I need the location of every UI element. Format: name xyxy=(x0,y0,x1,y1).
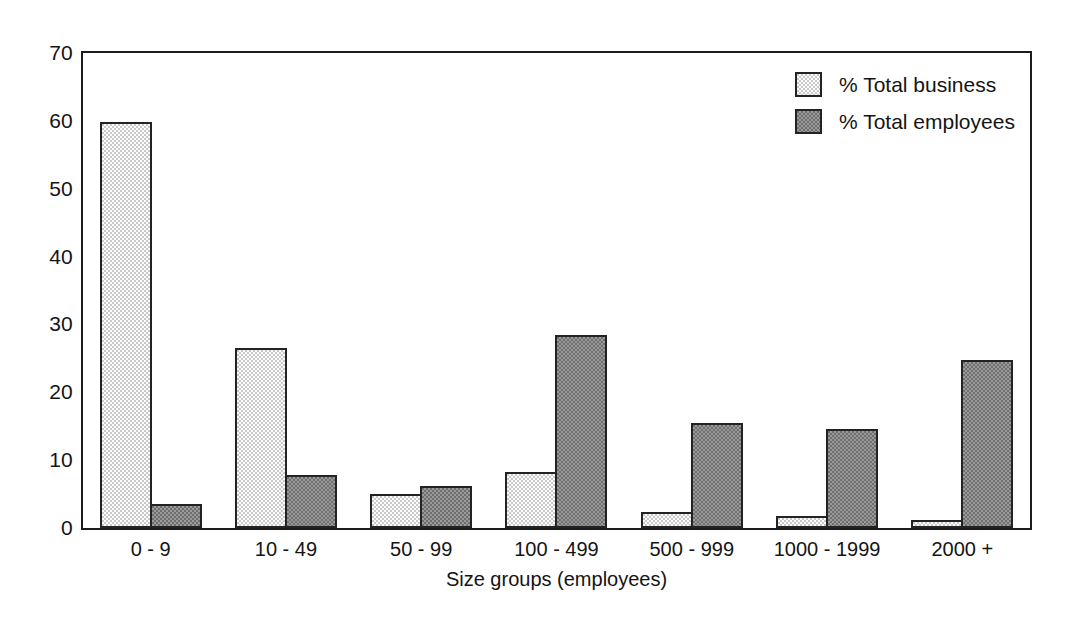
x-axis-tick-label: 500 - 999 xyxy=(624,538,759,560)
x-axis-tick-label: 10 - 49 xyxy=(218,538,353,560)
x-axis-tick-label: 100 - 499 xyxy=(489,538,624,560)
y-axis-tick-label: 60 xyxy=(0,110,73,131)
legend-label-total-employees: % Total employees xyxy=(839,110,1015,134)
bar-total-business[interactable] xyxy=(641,512,693,528)
bar-total-employees[interactable] xyxy=(285,475,337,528)
legend-item-total-business: % Total business xyxy=(795,72,1015,97)
bar-total-employees[interactable] xyxy=(420,486,472,528)
bar-chart: 010203040506070 % Total business % Total… xyxy=(0,0,1074,618)
bar-total-business[interactable] xyxy=(505,472,557,528)
legend-swatch-icon-total-employees xyxy=(795,109,822,134)
legend-label-total-business: % Total business xyxy=(839,73,996,97)
bar-group xyxy=(489,53,624,528)
bar-total-business[interactable] xyxy=(776,516,828,528)
x-axis-labels: 0 - 910 - 4950 - 99100 - 499500 - 999100… xyxy=(83,538,1030,560)
bar-total-employees[interactable] xyxy=(691,423,743,528)
bar-total-business[interactable] xyxy=(235,348,287,528)
x-axis-tick-label: 2000 + xyxy=(895,538,1030,560)
chart-legend: % Total business % Total employees xyxy=(795,72,1015,146)
legend-swatch-icon-total-business xyxy=(795,72,822,97)
bar-group xyxy=(83,53,218,528)
y-axis-tick-label: 10 xyxy=(0,449,73,470)
y-axis-tick-label: 20 xyxy=(0,381,73,402)
y-axis-tick-label: 30 xyxy=(0,313,73,334)
bar-total-employees[interactable] xyxy=(961,360,1013,528)
bar-group xyxy=(354,53,489,528)
bar-total-employees[interactable] xyxy=(150,504,202,528)
x-axis-tick-label: 0 - 9 xyxy=(83,538,218,560)
bar-total-business[interactable] xyxy=(100,122,152,528)
bar-group xyxy=(624,53,759,528)
bar-total-business[interactable] xyxy=(370,494,422,528)
y-axis-tick-label: 50 xyxy=(0,178,73,199)
x-axis-title: Size groups (employees) xyxy=(83,568,1030,590)
bar-group xyxy=(218,53,353,528)
y-axis-tick-label: 40 xyxy=(0,246,73,267)
y-axis-tick-label: 70 xyxy=(0,42,73,63)
x-axis-tick-label: 50 - 99 xyxy=(354,538,489,560)
x-axis-tick-label: 1000 - 1999 xyxy=(759,538,894,560)
y-axis-tick-label: 0 xyxy=(0,517,73,538)
bar-total-employees[interactable] xyxy=(555,335,607,528)
bar-total-business[interactable] xyxy=(911,520,963,528)
y-axis: 010203040506070 xyxy=(0,51,73,530)
bar-total-employees[interactable] xyxy=(826,429,878,528)
legend-item-total-employees: % Total employees xyxy=(795,109,1015,134)
